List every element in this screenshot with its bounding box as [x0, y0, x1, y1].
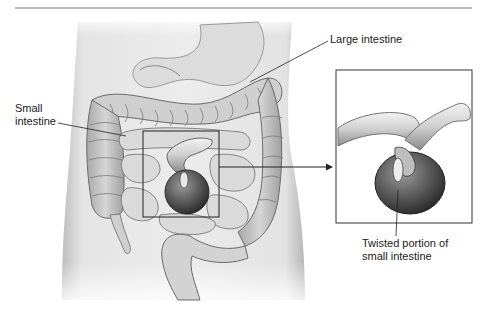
- label-small-intestine-line2: intestine: [15, 115, 56, 128]
- label-small-intestine-line1: Small: [15, 102, 56, 115]
- label-large-intestine: Large intestine: [330, 33, 402, 46]
- label-twisted-line2: small intestine: [362, 250, 448, 263]
- label-small-intestine: Small intestine: [15, 102, 56, 128]
- label-twisted-portion: Twisted portion of small intestine: [362, 237, 448, 263]
- label-large-intestine-text: Large intestine: [330, 33, 402, 45]
- label-twisted-line1: Twisted portion of: [362, 237, 448, 250]
- inset-detail: [336, 70, 472, 223]
